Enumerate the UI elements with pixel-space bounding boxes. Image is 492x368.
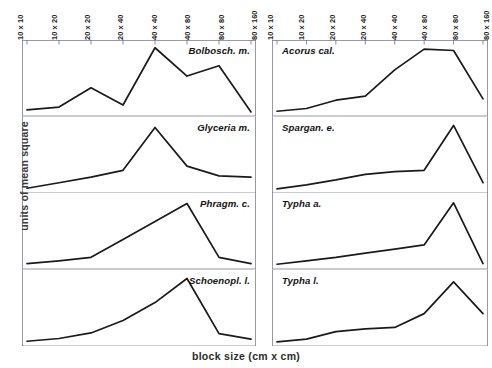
chart-panel: Spargan. e. [272, 117, 488, 194]
x-tick-label: 40 x 40 [390, 15, 399, 40]
species-label: Glyceria m. [197, 122, 250, 133]
species-label: Schoenopl. l. [189, 275, 250, 286]
x-tick-label: 40 x 80 [420, 15, 429, 40]
series-line [27, 48, 251, 112]
chart-panel: Schoenopl. l. [22, 270, 256, 347]
species-label: Phragm. c. [200, 198, 250, 209]
x-tick-label: 10 x 10 [16, 15, 25, 40]
series-line [277, 203, 483, 264]
x-tick-labels-right-column: 10 x 1010 x 2020 x 2020 x 4040 x 4040 x … [272, 0, 488, 40]
chart-panel: Phragm. c. [22, 193, 256, 270]
chart-panel: Bolbosch. m. [22, 40, 256, 117]
x-tick-label: 20 x 40 [116, 15, 125, 40]
species-label: Bolbosch. m. [189, 45, 250, 56]
x-tick-label: 80 x 160 [250, 10, 259, 40]
x-tick-label: 80 x 80 [451, 15, 460, 40]
series-line [277, 49, 483, 111]
x-tick-label: 40 x 40 [150, 15, 159, 40]
panel-column-left: Bolbosch. m.Glyceria m.Phragm. c.Schoeno… [22, 40, 256, 346]
panel-column-right: Acorus cal.Spargan. e.Typha a.Typha l. [272, 40, 488, 346]
x-tick-label: 20 x 20 [83, 15, 92, 40]
chart-panel: Typha a. [272, 193, 488, 270]
x-axis-title: block size (cm x cm) [0, 350, 492, 362]
series-line [27, 278, 251, 341]
species-label: Acorus cal. [282, 45, 335, 56]
x-tick-label: 20 x 20 [328, 15, 337, 40]
x-tick-label: 80 x 80 [217, 15, 226, 40]
series-line [277, 125, 483, 188]
species-label: Spargan. e. [282, 122, 335, 133]
x-tick-label: 10 x 10 [266, 15, 275, 40]
chart-panel: Typha l. [272, 270, 488, 347]
x-tick-label: 80 x 160 [482, 10, 491, 40]
series-line [27, 127, 251, 188]
x-tick-label: 40 x 80 [183, 15, 192, 40]
x-tick-labels-left-column: 10 x 1010 x 2020 x 2020 x 4040 x 4040 x … [22, 0, 256, 40]
species-label: Typha a. [282, 198, 321, 209]
species-label: Typha l. [282, 275, 319, 286]
x-tick-label: 10 x 20 [297, 15, 306, 40]
chart-panel: Acorus cal. [272, 40, 488, 117]
x-tick-label: 10 x 20 [50, 15, 59, 40]
series-line [277, 281, 483, 341]
figure-canvas: units of mean square 10 x 1010 x 2020 x … [0, 0, 492, 368]
series-line [27, 204, 251, 264]
x-tick-label: 20 x 40 [359, 15, 368, 40]
chart-panel: Glyceria m. [22, 117, 256, 194]
